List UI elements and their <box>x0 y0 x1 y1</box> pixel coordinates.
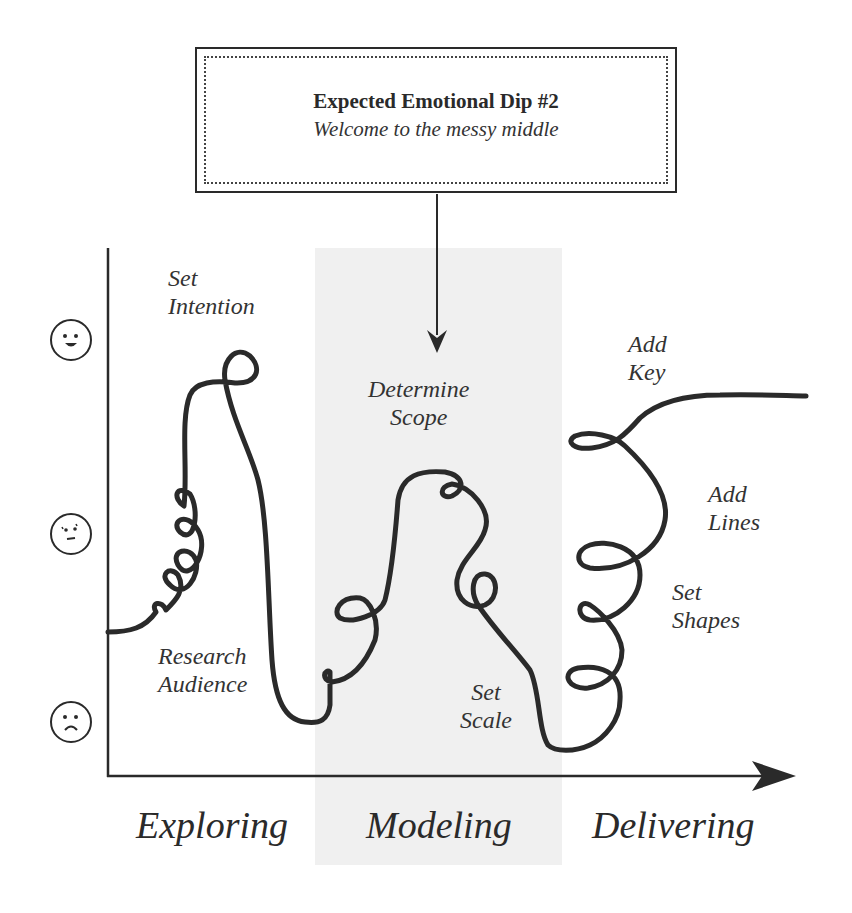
label-determine-scope: Determine Scope <box>368 375 469 431</box>
phase-modeling: Modeling <box>366 803 512 847</box>
label-set-intention: Set Intention <box>168 264 255 320</box>
callout-arrow <box>427 194 447 353</box>
sad-face-icon <box>49 700 93 744</box>
phase-delivering: Delivering <box>592 803 755 847</box>
label-add-key: Add Key <box>628 330 667 386</box>
phase-exploring: Exploring <box>136 803 288 847</box>
diagram-graphics <box>0 0 852 913</box>
uncertain-face-icon <box>49 512 93 556</box>
label-set-scale: Set Scale <box>460 678 512 734</box>
label-add-lines: Add Lines <box>708 480 760 536</box>
axes <box>107 248 796 791</box>
happy-face-icon <box>49 318 93 362</box>
label-research-audience: Research Audience <box>158 642 247 698</box>
label-set-shapes: Set Shapes <box>672 578 740 634</box>
